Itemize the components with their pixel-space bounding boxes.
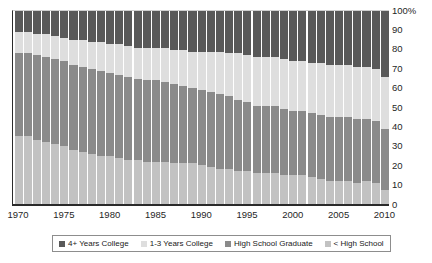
legend-item-label: High School Graduate	[234, 239, 313, 248]
bar-2007[interactable]	[353, 11, 361, 204]
bar-1992[interactable]	[216, 11, 224, 204]
bar-segment	[298, 175, 306, 204]
bar-2006[interactable]	[344, 11, 352, 204]
bar-1997[interactable]	[262, 11, 270, 204]
bar-segment	[216, 52, 224, 94]
bar-1978[interactable]	[88, 11, 96, 204]
bar-segment	[335, 65, 343, 117]
bar-1986[interactable]	[161, 11, 169, 204]
legend-item[interactable]: 1-3 Years College	[141, 239, 213, 248]
bar-segment	[362, 119, 370, 181]
bar-1984[interactable]	[143, 11, 151, 204]
bar-1981[interactable]	[115, 11, 123, 204]
bar-segment	[317, 179, 325, 204]
bar-1991[interactable]	[207, 11, 215, 204]
y-axis-tick-label: 50	[392, 102, 432, 113]
bar-segment	[88, 69, 96, 154]
bar-2000[interactable]	[289, 11, 297, 204]
bar-segment	[372, 121, 380, 183]
bar-1999[interactable]	[280, 11, 288, 204]
bar-1979[interactable]	[97, 11, 105, 204]
bar-segment	[243, 102, 251, 171]
bar-1996[interactable]	[253, 11, 261, 204]
y-axis-tick-label: 70	[392, 63, 432, 74]
bar-1977[interactable]	[79, 11, 87, 204]
legend-item[interactable]: < High School	[325, 239, 384, 248]
bar-segment	[152, 80, 160, 161]
bar-segment	[97, 156, 105, 204]
bar-segment	[88, 42, 96, 69]
bar-1970[interactable]	[15, 11, 23, 204]
bar-1985[interactable]	[152, 11, 160, 204]
bar-2008[interactable]	[362, 11, 370, 204]
bar-1993[interactable]	[225, 11, 233, 204]
bar-segment	[106, 73, 114, 156]
bar-segment	[298, 61, 306, 111]
x-axis-tick-label: 1985	[135, 208, 175, 222]
legend-item[interactable]: 4+ Years College	[59, 239, 129, 248]
bar-1990[interactable]	[198, 11, 206, 204]
bar-segment	[115, 44, 123, 75]
bar-segment	[280, 59, 288, 109]
bar-segment	[353, 67, 361, 119]
x-axis-tick-label: 1975	[44, 208, 84, 222]
bar-1972[interactable]	[33, 11, 41, 204]
bar-2003[interactable]	[317, 11, 325, 204]
bar-1976[interactable]	[69, 11, 77, 204]
bar-1983[interactable]	[134, 11, 142, 204]
bar-segment	[225, 11, 233, 53]
x-axis-tick-label: 1980	[90, 208, 130, 222]
bar-1973[interactable]	[42, 11, 50, 204]
bar-segment	[42, 57, 50, 142]
bar-segment	[188, 52, 196, 89]
bar-segment	[134, 11, 142, 48]
bar-segment	[179, 50, 187, 87]
bar-segment	[188, 11, 196, 52]
bar-segment	[51, 144, 59, 204]
bar-segment	[69, 40, 77, 65]
bar-2002[interactable]	[308, 11, 316, 204]
bar-segment	[161, 162, 169, 204]
bar-2009[interactable]	[372, 11, 380, 204]
bar-1975[interactable]	[60, 11, 68, 204]
bar-segment	[51, 11, 59, 36]
bar-segment	[15, 11, 23, 32]
bar-segment	[243, 55, 251, 101]
bar-1989[interactable]	[188, 11, 196, 204]
bar-1994[interactable]	[234, 11, 242, 204]
legend-item[interactable]: High School Graduate	[225, 239, 313, 248]
bar-2010[interactable]	[381, 11, 389, 204]
bar-1971[interactable]	[24, 11, 32, 204]
stacked-bar-chart: 0102030405060708090100% 1970197519801985…	[0, 0, 432, 263]
bar-segment	[308, 113, 316, 177]
bar-1980[interactable]	[106, 11, 114, 204]
bar-2005[interactable]	[335, 11, 343, 204]
bar-segment	[115, 75, 123, 158]
bar-segment	[335, 181, 343, 204]
bar-2001[interactable]	[298, 11, 306, 204]
legend-item-label: < High School	[334, 239, 384, 248]
bar-1988[interactable]	[179, 11, 187, 204]
bar-1982[interactable]	[124, 11, 132, 204]
bar-segment	[115, 11, 123, 44]
bar-segment	[308, 63, 316, 113]
bar-segment	[60, 38, 68, 61]
bar-segment	[353, 11, 361, 67]
bar-segment	[344, 65, 352, 117]
legend-swatch-icon	[59, 241, 65, 247]
bar-segment	[170, 84, 178, 163]
bar-1998[interactable]	[271, 11, 279, 204]
bar-segment	[198, 11, 206, 52]
bar-segment	[188, 163, 196, 204]
bar-segment	[33, 55, 41, 140]
bar-2004[interactable]	[326, 11, 334, 204]
bar-1995[interactable]	[243, 11, 251, 204]
bar-segment	[243, 171, 251, 204]
bar-segment	[60, 61, 68, 146]
bar-segment	[234, 53, 242, 99]
bar-segment	[225, 53, 233, 95]
bar-1987[interactable]	[170, 11, 178, 204]
bar-segment	[372, 183, 380, 204]
bar-1974[interactable]	[51, 11, 59, 204]
y-axis-tick-label: 60	[392, 82, 432, 93]
